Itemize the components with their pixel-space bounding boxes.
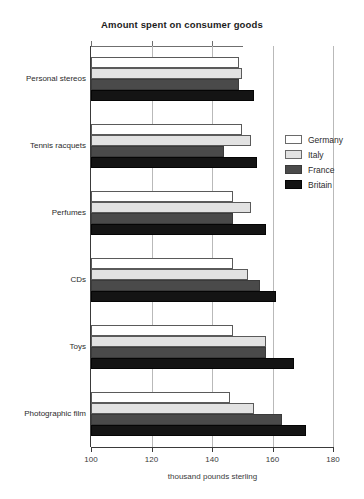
legend-item-germany[interactable]: Germany: [285, 133, 364, 146]
bar-france: [91, 414, 282, 425]
bar-britain: [91, 358, 294, 369]
x-tick-label: 100: [84, 455, 97, 464]
category-label: Photographic film: [0, 409, 86, 418]
bar-france: [91, 347, 266, 358]
category-label: Personal stereos: [0, 74, 86, 83]
bar-britain: [91, 425, 306, 436]
gridline-120: [152, 46, 153, 447]
x-axis-title: thousand pounds sterling: [91, 472, 334, 481]
tick-180: [333, 447, 334, 452]
gridline-140: [212, 46, 213, 447]
tick-100: [91, 447, 92, 452]
legend-item-france[interactable]: France: [285, 163, 364, 176]
bar-italy: [91, 202, 251, 213]
chart-legend: GermanyItalyFranceBritain: [285, 133, 364, 193]
bar-italy: [91, 336, 266, 347]
bar-britain: [91, 291, 276, 302]
bar-france: [91, 213, 233, 224]
legend-item-britain[interactable]: Britain: [285, 178, 364, 191]
gridline-180: [333, 46, 334, 447]
bar-germany: [91, 258, 233, 269]
bar-italy: [91, 403, 254, 414]
bar-britain: [91, 224, 266, 235]
legend-label: Italy: [308, 150, 324, 160]
bar-italy: [91, 269, 248, 280]
plot-top-border: [91, 46, 243, 47]
category-label: Toys: [0, 342, 86, 351]
x-tick-label: 120: [145, 455, 158, 464]
gridline-160: [273, 46, 274, 447]
bar-france: [91, 146, 224, 157]
legend-label: France: [308, 165, 334, 175]
tick-120: [152, 447, 153, 452]
legend-label: Britain: [308, 180, 332, 190]
x-tick-label: 180: [326, 455, 339, 464]
bar-germany: [91, 325, 233, 336]
x-tick-label: 160: [266, 455, 279, 464]
bar-france: [91, 79, 239, 90]
bar-italy: [91, 68, 242, 79]
bar-france: [91, 280, 260, 291]
legend-swatch-france-icon: [285, 165, 302, 174]
y-axis-line: [90, 46, 91, 447]
tick-140: [212, 447, 213, 452]
chart-title: Amount spent on consumer goods: [0, 19, 364, 30]
bar-germany: [91, 124, 242, 135]
legend-item-italy[interactable]: Italy: [285, 148, 364, 161]
bar-britain: [91, 90, 254, 101]
bar-germany: [91, 392, 230, 403]
legend-swatch-germany-icon: [285, 135, 302, 144]
bar-chart: Amount spent on consumer goods 100120140…: [0, 0, 364, 499]
bar-germany: [91, 57, 239, 68]
category-label: Perfumes: [0, 208, 86, 217]
tick-top-140: [212, 41, 213, 46]
bar-italy: [91, 135, 251, 146]
legend-swatch-italy-icon: [285, 150, 302, 159]
bar-germany: [91, 191, 233, 202]
category-label: Tennis racquets: [0, 141, 86, 150]
legend-label: Germany: [308, 135, 343, 145]
x-tick-label: 140: [205, 455, 218, 464]
legend-swatch-britain-icon: [285, 180, 302, 189]
category-label: CDs: [0, 275, 86, 284]
tick-160: [273, 447, 274, 452]
tick-top-120: [152, 41, 153, 46]
bar-britain: [91, 157, 257, 168]
tick-top-100: [91, 41, 92, 46]
